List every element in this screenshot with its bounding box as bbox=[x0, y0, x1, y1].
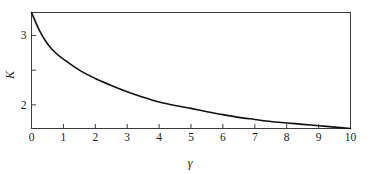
x-axis-ticks: 012345678910 bbox=[29, 124, 357, 143]
x-tick-label: 6 bbox=[220, 131, 226, 143]
y-axis-ticks: 23 bbox=[21, 29, 36, 110]
x-tick-label: 8 bbox=[284, 131, 290, 143]
x-tick-label: 7 bbox=[252, 131, 258, 143]
x-axis-title: γ bbox=[188, 156, 193, 170]
x-tick-label: 3 bbox=[124, 131, 130, 143]
x-tick-label: 10 bbox=[345, 131, 357, 143]
curve-k-of-gamma bbox=[32, 13, 351, 129]
chart-canvas: 012345678910 23 γ K bbox=[0, 0, 371, 174]
x-tick-label: 4 bbox=[156, 131, 162, 143]
figure-panel: 012345678910 23 γ K bbox=[0, 0, 371, 174]
y-axis-title: K bbox=[3, 70, 17, 80]
y-tick-label: 3 bbox=[21, 29, 27, 41]
x-tick-label: 1 bbox=[61, 131, 67, 143]
x-tick-label: 2 bbox=[92, 131, 98, 143]
data-curve bbox=[32, 13, 351, 129]
x-tick-label: 9 bbox=[316, 131, 322, 143]
y-tick-label: 2 bbox=[21, 99, 27, 111]
x-tick-label: 5 bbox=[188, 131, 194, 143]
x-tick-label: 0 bbox=[29, 131, 35, 143]
